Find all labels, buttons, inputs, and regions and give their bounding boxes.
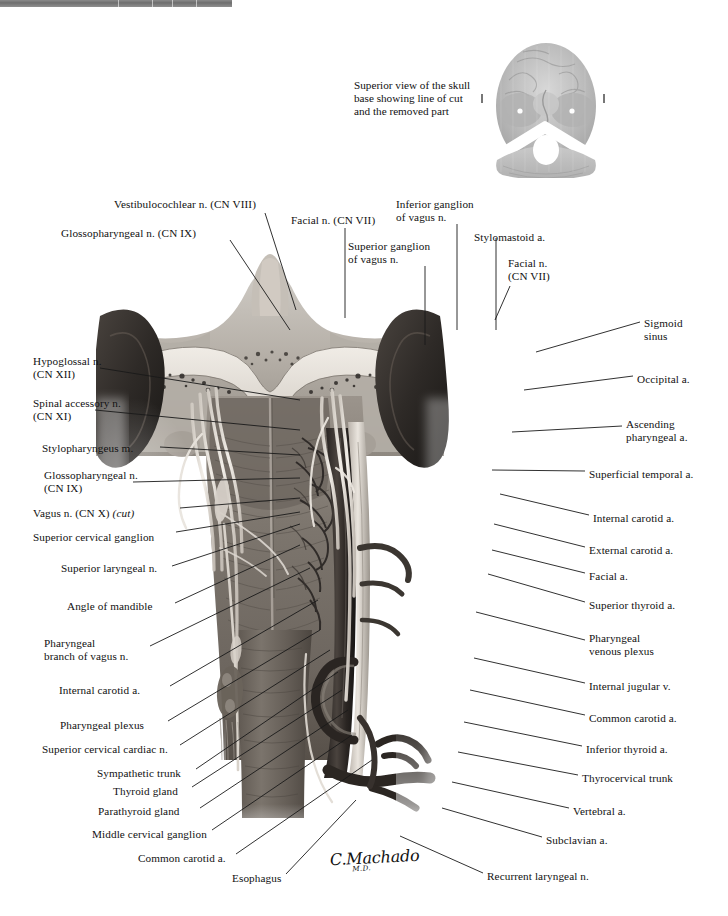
anatomy-label-pharyngeal-plexus: Pharyngeal plexus [60,719,144,732]
anatomy-label-superior-ganglion-of-vagus: Superior ganglion of vagus n. [348,240,430,265]
anatomy-label-common-carotid-artery-left: Common carotid a. [138,852,226,865]
anatomy-label-sigmoid-sinus: Sigmoid sinus [644,317,683,342]
anatomy-label-superior-cervical-cardiac-nerve: Superior cervical cardiac n. [42,743,168,756]
inset-tick-left [481,94,483,103]
scan-artifact-bar [0,0,232,7]
anatomy-label-vagus-nerve-cut: Vagus n. (CN X) (cut) [33,507,134,520]
anatomy-label-thyrocervical-trunk: Thyrocervical trunk [582,772,673,785]
anatomy-label-internal-carotid-artery-left: Internal carotid a. [59,684,140,697]
anatomy-label-pharyngeal-branch-of-vagus: Pharyngeal branch of vagus n. [44,637,128,662]
anatomy-label-ascending-pharyngeal-artery: Ascending pharyngeal a. [626,418,688,443]
anatomy-label-facial-artery: Facial a. [589,570,628,583]
anatomy-label-superior-thyroid-artery: Superior thyroid a. [589,599,675,612]
anatomy-label-external-carotid-artery: External carotid a. [589,544,673,557]
anatomy-label-angle-of-mandible: Angle of mandible [67,600,153,613]
inset-caption: Superior view of the skull base showing … [354,79,474,117]
anatomy-label-recurrent-laryngeal-nerve: Recurrent laryngeal n. [487,870,589,883]
anatomy-label-vagus-nerve-cut-qualifier: (cut) [113,507,135,519]
anatomy-label-stylopharyngeus-muscle: Stylopharyngeus m. [42,442,133,455]
anatomy-label-common-carotid-artery-right: Common carotid a. [589,712,677,725]
anatomy-label-facial-nerve-top: Facial n. (CN VII) [291,214,375,227]
anatomy-label-esophagus: Esophagus [232,872,281,885]
anatomy-label-pharyngeal-venous-plexus: Pharyngeal venous plexus [589,632,654,657]
anatomy-label-inferior-ganglion-of-vagus: Inferior ganglion of vagus n. [396,198,474,223]
anatomy-label-superior-cervical-ganglion: Superior cervical ganglion [33,531,154,544]
anatomy-label-superficial-temporal-artery: Superficial temporal a. [589,468,694,481]
anatomy-label-stylomastoid-artery: Stylomastoid a. [474,231,545,244]
artist-signature: C.Machado M.D. [329,846,420,875]
anatomy-label-internal-jugular-vein: Internal jugular v. [589,680,671,693]
anatomy-label-glossopharyngeal-nerve-top: Glossopharyngeal n. (CN IX) [61,227,196,240]
anatomy-label-inferior-thyroid-artery: Inferior thyroid a. [586,743,668,756]
anatomy-label-subclavian-artery: Subclavian a. [546,834,608,847]
anatomy-label-internal-carotid-artery-right: Internal carotid a. [593,512,674,525]
anatomy-label-parathyroid-gland: Parathyroid gland [98,805,180,818]
anatomy-label-sympathetic-trunk: Sympathetic trunk [97,767,181,780]
anatomy-label-vestibulocochlear-nerve: Vestibulocochlear n. (CN VIII) [114,198,256,211]
skull-base-inset-image [487,40,605,178]
anatomy-plate: Superior view of the skull base showing … [0,0,728,916]
inset-tick-right [603,94,605,103]
anatomy-label-occipital-artery: Occipital a. [637,373,690,386]
anatomy-label-middle-cervical-ganglion: Middle cervical ganglion [92,828,207,841]
anatomy-label-spinal-accessory-nerve: Spinal accessory n. (CN XI) [33,397,121,422]
anatomy-label-facial-nerve-right: Facial n. (CN VII) [508,257,550,282]
anatomy-label-vertebral-artery: Vertebral a. [573,805,626,818]
anatomy-label-hypoglossal-nerve: Hypoglossal n. (CN XII) [33,355,102,380]
anatomy-label-glossopharyngeal-nerve-left: Glossopharyngeal n. (CN IX) [44,469,138,494]
anatomy-label-superior-laryngeal-nerve: Superior laryngeal n. [61,562,157,575]
anatomy-label-thyroid-gland: Thyroid gland [113,785,178,798]
